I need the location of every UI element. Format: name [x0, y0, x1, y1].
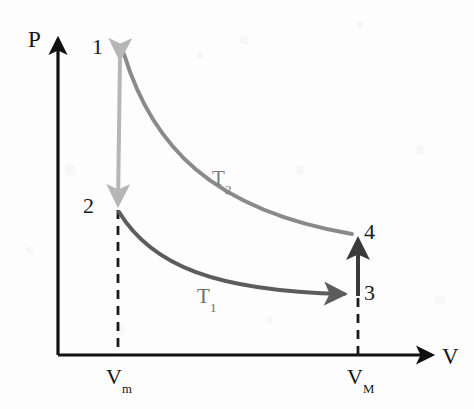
- volume-axis-label: V: [442, 345, 459, 368]
- scan-noise-artifacts: [26, 21, 445, 335]
- hot-isotherm-label-subscript: 2: [225, 182, 232, 197]
- cold-isotherm-label: T1: [197, 286, 216, 310]
- cold-isotherm-label-base: T: [197, 284, 210, 308]
- v-min-tick-label: Vm: [106, 366, 132, 392]
- pressure-axis-label: P: [28, 28, 41, 51]
- state-point-label-1: 1: [92, 36, 103, 58]
- v-max-tick-label: VM: [347, 366, 374, 392]
- pv-diagram-figure: P V 1 2 3 4 T2 T1 Vm VM: [0, 0, 474, 409]
- hot-isotherm-label-base: T: [212, 166, 225, 190]
- v-max-tick-subscript: M: [363, 382, 374, 396]
- hot-isotherm-label: T2: [212, 168, 231, 192]
- cold-isotherm-label-subscript: 1: [210, 300, 217, 315]
- hot-isotherm-curve: [124, 54, 352, 234]
- state-point-label-2: 2: [83, 195, 94, 217]
- pv-diagram-canvas: [0, 0, 474, 409]
- v-min-tick-base: V: [106, 364, 122, 389]
- v-min-tick-subscript: m: [122, 382, 132, 396]
- isochoric-compression-min-volume: [118, 58, 120, 204]
- state-point-label-4: 4: [364, 221, 375, 243]
- v-max-tick-base: V: [347, 364, 363, 389]
- state-point-label-3: 3: [364, 282, 375, 304]
